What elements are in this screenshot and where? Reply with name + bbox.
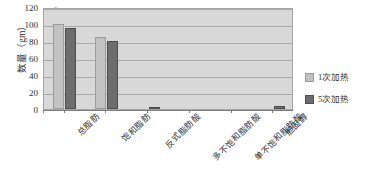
x-axis-tick-mark — [189, 110, 190, 113]
legend-label: 1次加热 — [318, 72, 349, 82]
bar — [149, 107, 160, 109]
legend-swatch-icon — [305, 95, 314, 104]
legend-item: 1次加热 — [305, 72, 371, 82]
x-axis-tick-mark — [105, 110, 106, 113]
x-axis-tick-mark — [272, 110, 273, 113]
plot-area — [43, 8, 293, 110]
x-axis-category-label: 反式脂肪酸 — [164, 112, 202, 150]
y-axis-tick-label: 80 — [14, 38, 38, 47]
x-axis-tick-mark — [43, 110, 44, 113]
bar — [65, 28, 76, 109]
legend-item: 5次加热 — [305, 94, 371, 104]
x-axis-category-labels: 总脂肪饱和脂肪反式脂肪酸多不饱和脂肪酸单不饱和脂肪酸胆固醇 — [0, 112, 373, 196]
y-axis-tick-labels: 020406080100120 — [14, 8, 38, 110]
bar-chart: 数量（gm） 020406080100120 总脂肪饱和脂肪反式脂肪酸多不饱和脂… — [0, 0, 373, 196]
x-axis-tick-mark — [147, 110, 148, 113]
x-axis-tick-mark — [64, 110, 65, 113]
bar-group — [178, 9, 201, 109]
x-axis-category-label: 总脂肪 — [76, 112, 101, 137]
bar — [95, 37, 106, 109]
y-axis-tick-label: 40 — [14, 72, 38, 81]
bar-group — [53, 9, 76, 109]
bar — [107, 41, 118, 109]
y-axis-tick-label: 120 — [14, 4, 38, 13]
bar-group — [137, 9, 160, 109]
bar — [274, 106, 285, 109]
bar-group — [220, 9, 243, 109]
legend: 1次加热 5次加热 — [305, 72, 371, 116]
x-axis-tick-mark — [231, 110, 232, 113]
bar-group — [262, 9, 285, 109]
y-axis-tick-label: 20 — [14, 89, 38, 98]
y-axis-tick-label: 100 — [14, 21, 38, 30]
x-axis-category-label: 饱和脂肪 — [120, 112, 152, 144]
bar — [53, 24, 64, 109]
bars-layer — [44, 9, 292, 109]
legend-swatch-icon — [305, 73, 314, 82]
legend-label: 5次加热 — [318, 94, 349, 104]
y-axis-tick-label: 60 — [14, 55, 38, 64]
bar-group — [95, 9, 118, 109]
